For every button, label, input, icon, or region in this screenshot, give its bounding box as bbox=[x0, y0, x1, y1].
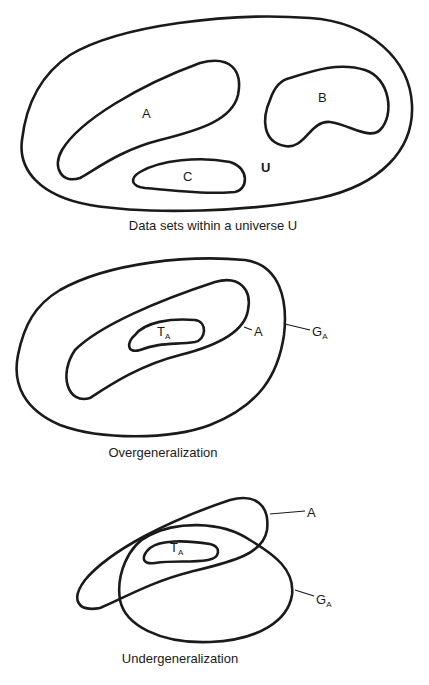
a-under-pointer bbox=[270, 511, 305, 514]
label-ta-under: TA bbox=[170, 541, 183, 554]
caption-undergeneralization: Undergeneralization bbox=[122, 651, 238, 666]
caption-overgeneralization: Overgeneralization bbox=[108, 445, 217, 460]
label-a-under: A bbox=[307, 506, 316, 519]
a-over-pointer bbox=[244, 327, 252, 330]
a-over-outline bbox=[66, 280, 248, 399]
label-ta-over: TA bbox=[157, 325, 170, 338]
label-set-b: B bbox=[318, 91, 327, 104]
ga-under-pointer bbox=[295, 590, 314, 596]
caption-data-sets: Data sets within a universe U bbox=[129, 218, 297, 233]
label-a-over: A bbox=[254, 325, 263, 338]
label-set-a: A bbox=[142, 107, 151, 120]
label-set-c: C bbox=[183, 170, 192, 183]
ga-over-pointer bbox=[285, 324, 310, 330]
label-ga-under: GA bbox=[316, 593, 331, 606]
set-b-outline bbox=[265, 67, 388, 147]
diagram-canvas bbox=[0, 0, 429, 685]
universe-u-outline bbox=[22, 17, 413, 211]
label-universe-u: U bbox=[261, 161, 270, 174]
label-ga-over: GA bbox=[312, 325, 327, 338]
